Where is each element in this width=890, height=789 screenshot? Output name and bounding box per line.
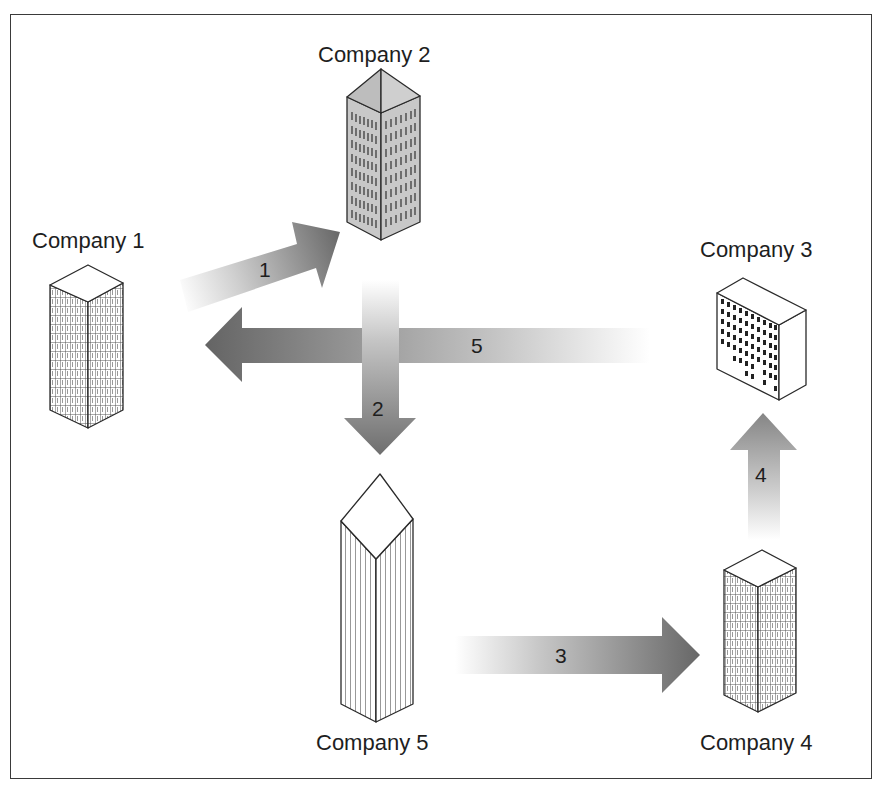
company-5-building-icon [341,474,413,722]
company-5-label: Company 5 [316,730,429,755]
company-2-label: Company 2 [318,42,431,67]
flow-arrow-2 [344,280,416,455]
flow-label-2: 2 [372,397,384,420]
company-4-building-icon [724,550,796,712]
company-3-label: Company 3 [700,237,813,262]
company-4-label: Company 4 [700,730,813,755]
flow-arrow-5 [205,307,650,382]
company-1-label: Company 1 [32,228,145,253]
flow-label-5: 5 [471,334,483,357]
flow-label-3: 3 [555,644,567,667]
company-1-building-icon [50,265,123,428]
company-3-building-icon [717,278,806,400]
flow-label-1: 1 [259,258,271,281]
flow-label-4: 4 [755,463,767,486]
flow-arrow-3 [455,617,700,693]
flow-diagram: 1 2 3 4 5 Company 1 Company 2 [0,0,890,789]
company-2-building-icon [347,69,420,240]
